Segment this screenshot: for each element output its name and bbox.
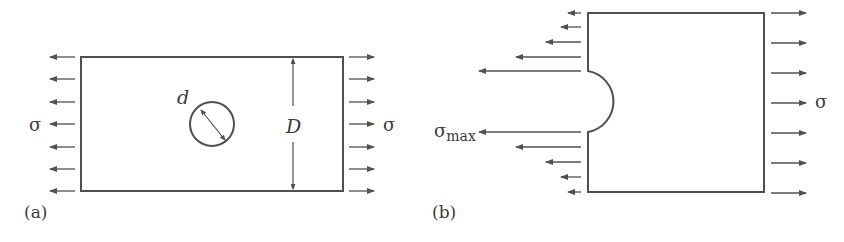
panel-a: d D σ σ (a) [24, 57, 395, 222]
panel-label-b: (b) [432, 202, 456, 222]
hole-diameter-label: d [177, 86, 189, 108]
stress-label-left: σ [29, 114, 41, 135]
panel-label-a: (a) [24, 202, 47, 222]
left-stress-arrows-a [50, 57, 75, 191]
panel-b: σmax σ (b) [432, 13, 827, 222]
stress-max-subscript: max [446, 128, 476, 144]
stress-max-label: σmax [434, 120, 476, 144]
right-stress-arrows-a [349, 57, 374, 191]
diameter-dimension [201, 110, 225, 140]
left-stress-arrows-b [479, 13, 581, 192]
notched-plate-b [588, 13, 764, 192]
width-label: D [285, 115, 301, 137]
right-stress-arrows-b [771, 13, 806, 193]
stress-label-right-b: σ [815, 91, 827, 112]
stress-concentration-diagram: d D σ σ (a) σ [0, 0, 844, 242]
stress-max-symbol: σ [434, 120, 446, 141]
stress-label-right: σ [383, 114, 395, 135]
